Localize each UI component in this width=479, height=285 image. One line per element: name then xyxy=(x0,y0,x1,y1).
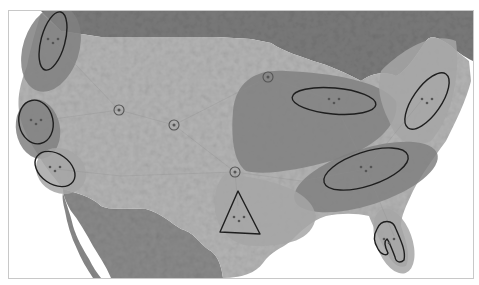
city-dot xyxy=(35,123,38,126)
city-dot xyxy=(328,98,331,101)
city-dot xyxy=(338,98,341,101)
city-dot xyxy=(173,124,176,127)
city-dot xyxy=(360,166,363,169)
city-dot xyxy=(47,38,50,41)
city-dot xyxy=(30,119,33,122)
city-dot xyxy=(52,42,55,45)
city-dot xyxy=(57,38,60,41)
city-dot xyxy=(383,238,386,241)
city-dot xyxy=(431,98,434,101)
map-frame xyxy=(8,10,474,279)
city-dot xyxy=(365,170,368,173)
city-dot xyxy=(243,216,246,219)
city-dot xyxy=(59,166,62,169)
city-dot xyxy=(421,98,424,101)
city-dot xyxy=(238,220,241,223)
city-dot xyxy=(49,166,52,169)
city-dot xyxy=(426,102,429,105)
megaregions-map[interactable] xyxy=(9,11,473,278)
city-dot xyxy=(333,102,336,105)
city-dot xyxy=(267,76,270,79)
city-dot xyxy=(393,238,396,241)
city-dot xyxy=(54,170,57,173)
city-dot xyxy=(388,242,391,245)
city-dot xyxy=(233,216,236,219)
city-dot xyxy=(370,166,373,169)
city-dot xyxy=(118,109,121,112)
city-dot xyxy=(40,119,43,122)
city-dot xyxy=(234,171,237,174)
